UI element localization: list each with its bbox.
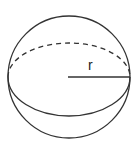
equator-back-dashed-arc — [8, 43, 130, 77]
radius-label: r — [88, 57, 93, 73]
sphere-diagram: r — [0, 0, 137, 147]
equator-front-arc — [8, 77, 130, 116]
